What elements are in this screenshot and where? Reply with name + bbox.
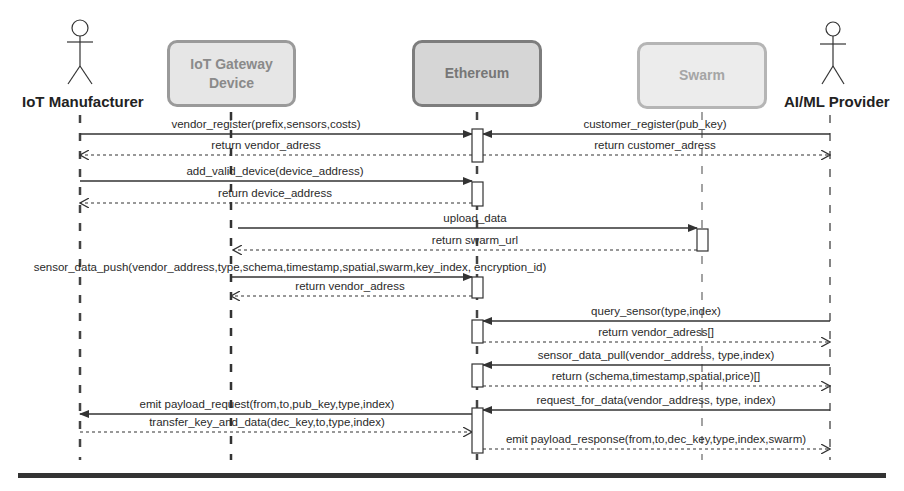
message-label: return customer_adress: [594, 139, 715, 151]
message-label: return vendor_adress: [211, 139, 320, 151]
activation-box: [472, 277, 483, 298]
actor-icon-aiml-provider: [820, 22, 846, 84]
actor-icon-manufacturer: [67, 20, 93, 84]
bottom-divider: [18, 473, 886, 478]
message-label: sensor_data_pull(vendor_address, type,in…: [538, 349, 775, 361]
participant-gateway-box: IoT Gateway Device: [167, 40, 296, 107]
message-label: customer_register(pub_key): [583, 118, 726, 130]
message-label: sensor_data_push(vendor_address,type,sch…: [34, 261, 547, 273]
message-label: return swarm_url: [432, 234, 518, 246]
participant-swarm-box: Swarm: [637, 42, 767, 109]
message-label: return device_address: [218, 187, 332, 199]
participant-gateway-line1: IoT Gateway: [190, 55, 272, 74]
message-label: query_sensor(type,index): [591, 305, 721, 317]
actor-label-manufacturer: IoT Manufacturer: [22, 93, 144, 110]
message-label: transfer_key_and_data(dec_key,to,type,in…: [149, 416, 385, 428]
activation-box: [472, 129, 483, 162]
message-label: return vendor_adress[]: [598, 326, 714, 338]
participant-gateway-line2: Device: [190, 74, 272, 93]
activation-box: [472, 182, 483, 206]
activation-box: [697, 229, 708, 251]
message-label: request_for_data(vendor_address, type, i…: [536, 394, 775, 406]
activation-box: [472, 364, 483, 387]
participant-ethereum-label: Ethereum: [445, 64, 510, 83]
message-label: emit payload_request(from,to,pub_key,typ…: [140, 398, 395, 410]
message-label: emit payload_response(from,to,dec_key,ty…: [506, 433, 806, 445]
activation-box: [472, 408, 483, 453]
activation-box: [472, 320, 483, 343]
message-label: return (schema,timestamp,spatial,price)[…: [552, 370, 760, 382]
participant-ethereum-box: Ethereum: [412, 40, 542, 107]
participant-swarm-label: Swarm: [679, 66, 725, 85]
message-label: vendor_register(prefix,sensors,costs): [171, 118, 360, 130]
message-label: upload_data: [443, 212, 506, 224]
message-label: add_valid_device(device_address): [186, 165, 363, 177]
message-label: return vendor_adress: [295, 280, 404, 292]
actor-label-aiml-provider: AI/ML Provider: [784, 93, 890, 110]
